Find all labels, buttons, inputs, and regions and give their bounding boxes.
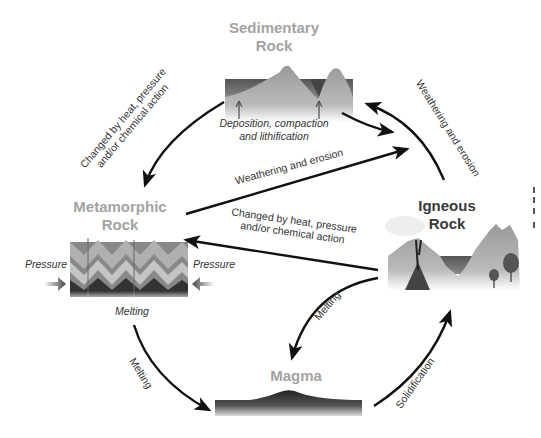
edge-label-meta-sed: Weathering and erosion xyxy=(234,146,345,186)
sedimentary-landscape-icon xyxy=(225,66,353,122)
pressure-left-arrow-icon xyxy=(44,277,66,291)
metamorphic-title-line1: Metamorphic xyxy=(73,198,166,215)
magma-title: Magma xyxy=(270,367,322,384)
sedimentary-caption-line2: and lithification xyxy=(239,130,309,142)
edge-label-sed-meta-line1: Changed by heat, pressure xyxy=(77,65,168,170)
sedimentary-rock-node: Sedimentary Rock Deposition, compaction … xyxy=(219,19,353,142)
metamorphic-melting-caption: Melting xyxy=(115,305,149,317)
edge-label-ign-sed: Weathering and erosion xyxy=(414,78,483,179)
magma-pool-icon xyxy=(215,390,362,416)
igneous-title-line1: Igneous xyxy=(418,197,476,214)
pressure-right-label: Pressure xyxy=(193,258,235,270)
arrow-sedimentary-to-metamorphic xyxy=(145,102,224,185)
edge-label-magma-ign: Solidification xyxy=(393,355,437,410)
rock-cycle-diagram: Sedimentary Rock Deposition, compaction … xyxy=(0,0,541,438)
igneous-rock-node: Igneous Rock xyxy=(385,197,520,290)
arrow-igneous-to-sedimentary xyxy=(367,104,444,180)
metamorphic-rock-node: Metamorphic Rock Pressure Pressure Melti… xyxy=(25,198,235,317)
clipped-right-edge-text xyxy=(533,187,535,228)
edge-label-ign-magma: Melting xyxy=(311,288,342,322)
pressure-left-label: Pressure xyxy=(25,258,67,270)
arrow-igneous-to-magma xyxy=(292,278,378,358)
sedimentary-title-line1: Sedimentary xyxy=(229,19,320,36)
pressure-right-arrow-icon xyxy=(192,277,214,291)
sedimentary-caption-line1: Deposition, compaction xyxy=(219,117,328,129)
sedimentary-title-line2: Rock xyxy=(256,37,293,54)
igneous-title-line2: Rock xyxy=(429,215,466,232)
magma-node: Magma xyxy=(215,367,362,416)
arrow-sedimentary-to-igneous-deposition xyxy=(342,113,392,132)
metamorphic-title-line2: Rock xyxy=(102,216,139,233)
folded-strata-icon xyxy=(70,238,188,300)
